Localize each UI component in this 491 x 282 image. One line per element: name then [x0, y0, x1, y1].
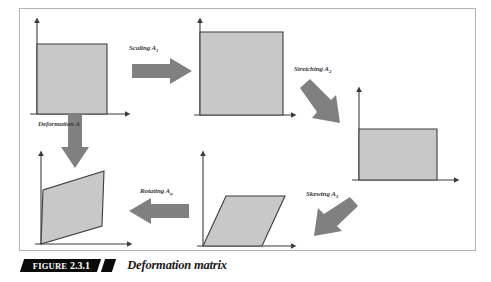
scaled-square [200, 32, 283, 115]
scaling-arrow-icon [132, 58, 192, 84]
rotated-parallelogram [41, 171, 104, 244]
rotating-label: Rotating Aφ [139, 187, 173, 196]
scaling-label: Scaling A1 [129, 44, 158, 53]
banner-accent-mark [101, 259, 116, 272]
skewing-arrow-icon [314, 197, 358, 236]
skewed-parallelogram [203, 196, 285, 246]
figure-container: Scaling A1 Stretching A2 Skewing A3 Rota… [0, 0, 491, 282]
skewing-label: Skewing A3 [306, 190, 339, 199]
figure-word: FIGURE [33, 260, 67, 270]
original-square [37, 44, 107, 114]
stretched-rectangle [359, 129, 437, 180]
stretching-arrow-icon [300, 79, 340, 123]
deformation-diagram: Scaling A1 Stretching A2 Skewing A3 Rota… [0, 0, 491, 282]
rotating-arrow-icon [129, 198, 189, 224]
figure-number-banner: FIGURE 2.3.1 [20, 259, 101, 272]
stretching-label: Stretching A2 [294, 65, 332, 74]
figure-caption-title: Deformation matrix [127, 258, 227, 273]
figure-caption: FIGURE 2.3.1 Deformation matrix [19, 255, 227, 275]
figure-number: 2.3.1 [70, 260, 90, 271]
deformation-label: Deformation A [37, 120, 80, 128]
